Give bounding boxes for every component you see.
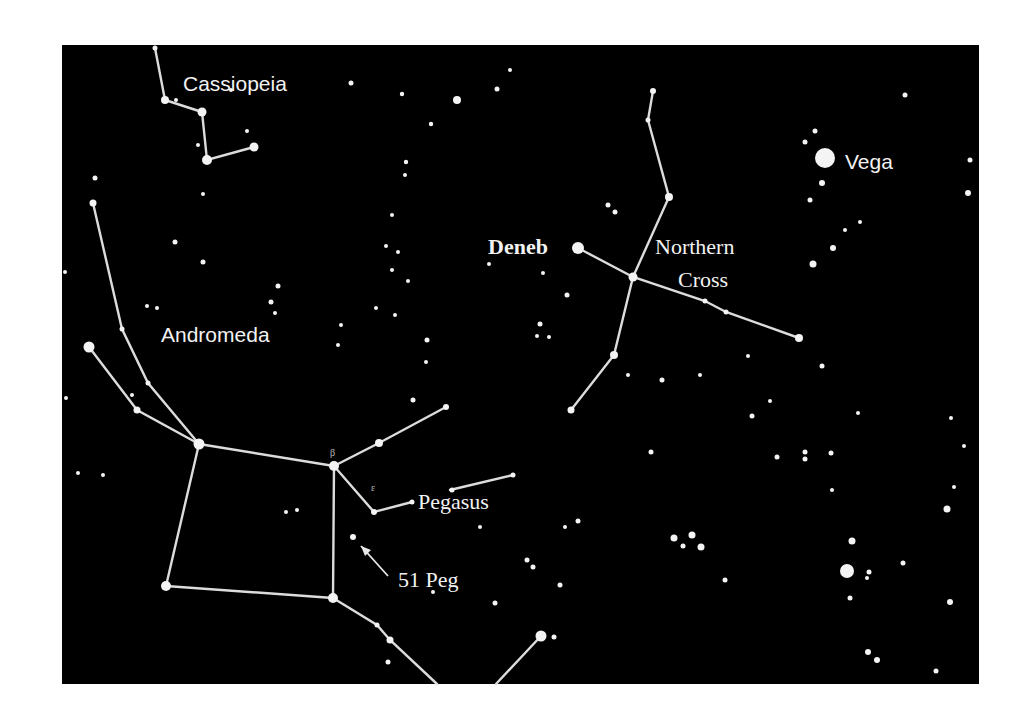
star bbox=[903, 93, 908, 98]
star bbox=[146, 381, 151, 386]
star bbox=[201, 192, 205, 196]
star bbox=[174, 98, 178, 102]
star bbox=[949, 416, 953, 420]
star bbox=[944, 506, 951, 513]
star bbox=[613, 210, 618, 215]
star bbox=[968, 158, 973, 163]
star bbox=[371, 509, 377, 515]
star bbox=[952, 485, 956, 489]
star bbox=[130, 393, 134, 397]
star bbox=[629, 273, 638, 282]
star bbox=[819, 180, 825, 186]
star bbox=[201, 260, 206, 265]
star bbox=[723, 578, 728, 583]
star bbox=[649, 450, 654, 455]
star bbox=[843, 228, 847, 232]
star bbox=[689, 532, 696, 539]
star bbox=[269, 300, 274, 305]
star bbox=[155, 306, 159, 310]
star bbox=[803, 457, 808, 462]
star bbox=[803, 140, 808, 145]
star bbox=[865, 576, 869, 580]
star bbox=[145, 304, 149, 308]
star bbox=[962, 444, 966, 448]
star bbox=[396, 250, 400, 254]
star bbox=[276, 284, 281, 289]
star bbox=[153, 46, 158, 51]
star bbox=[848, 596, 853, 601]
star bbox=[425, 338, 430, 343]
star bbox=[646, 118, 651, 123]
star bbox=[202, 155, 212, 165]
star bbox=[295, 508, 299, 512]
star bbox=[867, 570, 872, 575]
star bbox=[196, 143, 200, 147]
star bbox=[724, 310, 729, 315]
star bbox=[803, 450, 808, 455]
star bbox=[406, 279, 410, 283]
star bbox=[558, 583, 563, 588]
star bbox=[671, 535, 678, 542]
star bbox=[453, 96, 461, 104]
star bbox=[703, 299, 708, 304]
star bbox=[746, 354, 750, 358]
star bbox=[565, 293, 570, 298]
star bbox=[840, 564, 854, 578]
star bbox=[384, 244, 388, 248]
star bbox=[830, 488, 834, 492]
star bbox=[650, 88, 656, 94]
star bbox=[387, 637, 394, 644]
star bbox=[508, 68, 512, 72]
star bbox=[273, 311, 277, 315]
star bbox=[284, 510, 288, 514]
star bbox=[93, 176, 98, 181]
star-chart: βε Cassiopeia Andromeda Deneb Northern C… bbox=[0, 0, 1036, 728]
star bbox=[858, 220, 862, 224]
star bbox=[375, 623, 380, 628]
star bbox=[547, 335, 551, 339]
star bbox=[429, 122, 433, 126]
label-pegasus: Pegasus bbox=[418, 489, 489, 514]
star bbox=[768, 399, 772, 403]
star bbox=[535, 334, 539, 338]
star bbox=[478, 525, 482, 529]
star bbox=[400, 92, 404, 96]
star bbox=[874, 657, 880, 663]
star bbox=[572, 242, 584, 254]
star bbox=[161, 96, 169, 104]
star bbox=[198, 108, 207, 117]
star bbox=[865, 649, 871, 655]
star bbox=[813, 129, 818, 134]
star bbox=[795, 334, 803, 342]
star bbox=[947, 599, 953, 605]
star bbox=[487, 262, 491, 266]
star bbox=[84, 342, 95, 353]
label-vega: Vega bbox=[845, 150, 893, 173]
star bbox=[626, 373, 630, 377]
star bbox=[856, 411, 860, 415]
star bbox=[808, 198, 813, 203]
star bbox=[403, 173, 407, 177]
star bbox=[536, 631, 547, 642]
star bbox=[390, 213, 394, 217]
star bbox=[901, 561, 906, 566]
star bbox=[576, 519, 581, 524]
star bbox=[161, 581, 171, 591]
greek-letter-label: β bbox=[330, 447, 335, 458]
star bbox=[76, 471, 80, 475]
star bbox=[493, 601, 498, 606]
star bbox=[329, 461, 339, 471]
star bbox=[375, 439, 383, 447]
star bbox=[750, 414, 755, 419]
star bbox=[64, 396, 68, 400]
star bbox=[63, 270, 67, 274]
star bbox=[511, 473, 516, 478]
star bbox=[173, 240, 178, 245]
star bbox=[424, 360, 428, 364]
star bbox=[194, 439, 205, 450]
star bbox=[336, 343, 340, 347]
star bbox=[775, 455, 780, 460]
star bbox=[374, 306, 378, 310]
star bbox=[815, 148, 835, 168]
star bbox=[698, 373, 702, 377]
